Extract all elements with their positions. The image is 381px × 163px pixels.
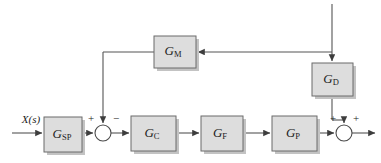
block-gsp-subscript: SP: [62, 132, 72, 142]
block-gm[interactable]: GM: [154, 36, 199, 71]
block-gd-subscript: D: [333, 77, 339, 87]
summing-junction-left-sign-feedback: −: [113, 112, 119, 124]
block-gf-subscript: F: [222, 131, 227, 141]
summing-junction-left-sign-input: +: [88, 112, 94, 124]
summing-junction-right-sign-process: +: [330, 112, 336, 124]
summing-junction-right[interactable]: + +: [330, 112, 359, 141]
block-gd[interactable]: GD: [312, 63, 356, 99]
block-diagram-svg: GSP GC GF GP: [0, 0, 381, 163]
input-signal-label: X(s): [21, 113, 41, 126]
block-gc[interactable]: GC: [131, 116, 179, 154]
wire-gm-to-sum-left: [103, 52, 154, 123]
block-gm-subscript: M: [174, 49, 182, 59]
block-gp-subscript: P: [295, 131, 300, 141]
block-gp[interactable]: GP: [272, 116, 320, 154]
block-gsp[interactable]: GSP: [44, 117, 85, 155]
summing-junction-right-sign-disturbance: +: [353, 112, 359, 124]
block-gf[interactable]: GF: [201, 116, 246, 154]
block-diagram-canvas: GSP GC GF GP: [0, 0, 381, 163]
block-gc-subscript: C: [154, 131, 160, 141]
